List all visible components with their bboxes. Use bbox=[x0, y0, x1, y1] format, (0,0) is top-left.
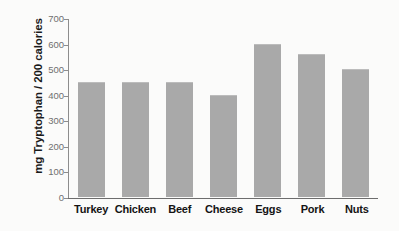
y-tick-label: 0 bbox=[38, 193, 64, 203]
y-tick-mark bbox=[64, 198, 68, 199]
bar bbox=[166, 82, 193, 197]
plot-area bbox=[68, 19, 378, 198]
x-tick-label: Cheese bbox=[202, 203, 246, 215]
y-tick-mark bbox=[64, 19, 68, 20]
bar-slot bbox=[69, 19, 113, 197]
bar-slot bbox=[246, 19, 290, 197]
x-tick-label: Pork bbox=[290, 203, 334, 215]
y-tick-mark bbox=[64, 70, 68, 71]
bar bbox=[254, 44, 281, 197]
bar bbox=[122, 82, 149, 197]
bar-chart: mg Tryptophan / 200 calories 01002003004… bbox=[0, 0, 399, 231]
x-axis-category-labels: TurkeyChickenBeefCheeseEggsPorkNuts bbox=[69, 203, 379, 221]
y-tick-mark bbox=[64, 45, 68, 46]
y-tick-label: 400 bbox=[38, 91, 64, 101]
y-tick-label: 200 bbox=[38, 142, 64, 152]
y-tick-label: 500 bbox=[38, 65, 64, 75]
bar-series bbox=[69, 19, 378, 197]
y-axis-tick-labels: 0100200300400500600700 bbox=[38, 0, 64, 231]
x-tick-label: Beef bbox=[158, 203, 202, 215]
bar-slot bbox=[157, 19, 201, 197]
y-tick-label: 600 bbox=[38, 40, 64, 50]
bar-slot bbox=[201, 19, 245, 197]
bar bbox=[342, 69, 369, 197]
x-tick-label: Nuts bbox=[335, 203, 379, 215]
y-tick-mark bbox=[64, 172, 68, 173]
bar-slot bbox=[334, 19, 378, 197]
x-tick-label: Turkey bbox=[69, 203, 113, 215]
bar-slot bbox=[290, 19, 334, 197]
bar bbox=[210, 95, 237, 197]
y-tick-mark bbox=[64, 147, 68, 148]
y-tick-mark bbox=[64, 121, 68, 122]
y-tick-label: 100 bbox=[38, 167, 64, 177]
y-tick-label: 700 bbox=[38, 14, 64, 24]
y-tick-label: 300 bbox=[38, 116, 64, 126]
bar-slot bbox=[113, 19, 157, 197]
x-tick-label: Eggs bbox=[246, 203, 290, 215]
bar bbox=[298, 54, 325, 197]
x-tick-label: Chicken bbox=[113, 203, 157, 215]
y-tick-mark bbox=[64, 96, 68, 97]
x-axis-line bbox=[68, 198, 378, 199]
bar bbox=[78, 82, 105, 197]
